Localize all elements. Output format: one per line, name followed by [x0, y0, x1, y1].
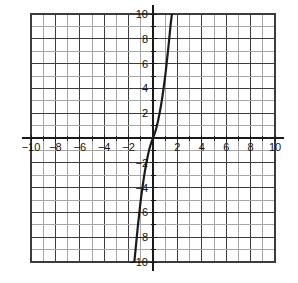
graph-canvas: −10−8−6−4−2246810108642−2−4−6−8−10	[0, 0, 298, 283]
coordinate-graph: −10−8−6−4−2246810108642−2−4−6−8−10	[0, 0, 298, 283]
y-tick-label: 4	[142, 82, 148, 94]
x-tick-label: 8	[248, 141, 254, 153]
y-tick-label: −4	[135, 182, 148, 194]
x-tick-label: −4	[98, 141, 111, 153]
y-tick-label: 10	[136, 8, 148, 20]
y-tick-label: −6	[135, 206, 148, 218]
x-tick-label: 10	[269, 141, 281, 153]
y-tick-label: −2	[135, 157, 148, 169]
x-tick-label: −2	[122, 141, 135, 153]
x-tick-label: −6	[74, 141, 87, 153]
x-tick-label: −10	[22, 141, 41, 153]
x-tick-label: 6	[223, 141, 229, 153]
y-tick-label: 6	[142, 58, 148, 70]
y-tick-label: −10	[129, 256, 148, 268]
x-tick-label: 2	[174, 141, 180, 153]
y-tick-label: 8	[142, 33, 148, 45]
y-tick-label: 2	[142, 107, 148, 119]
x-tick-label: −8	[49, 141, 62, 153]
x-tick-label: 4	[199, 141, 205, 153]
y-tick-label: −8	[135, 231, 148, 243]
